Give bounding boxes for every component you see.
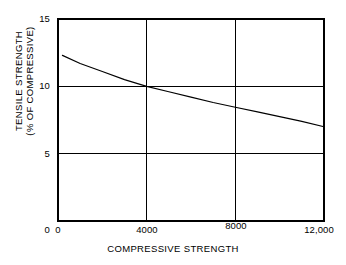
y-axis-title-line2: (% OF COMPRESSIVE) — [24, 6, 35, 156]
y-axis-title-line1: TENSILE STRENGTH — [13, 6, 24, 156]
x-tick-label-8000: 8000 — [212, 221, 260, 231]
chart-figure: 15 10 5 0 0 4000 8000 12,000 COMPRESSIVE… — [0, 0, 346, 265]
x-axis-title: COMPRESSIVE STRENGTH — [0, 243, 346, 254]
plot-background — [58, 19, 324, 221]
y-axis-title: TENSILE STRENGTH (% OF COMPRESSIVE) — [13, 6, 35, 156]
x-tick-label-4000: 4000 — [123, 225, 171, 235]
x-tick-label-12000: 12,000 — [292, 225, 346, 235]
y-tick-label-0: 0 — [28, 225, 50, 235]
x-tick-label-0: 0 — [48, 225, 68, 235]
